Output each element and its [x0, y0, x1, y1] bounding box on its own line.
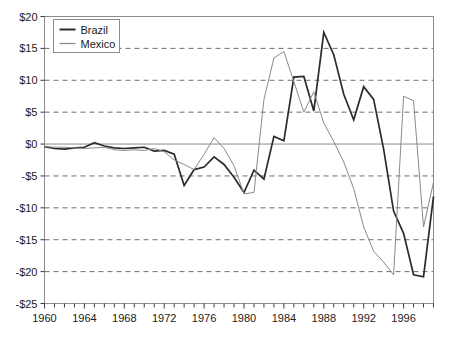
y-axis-label-10: $10 — [19, 74, 37, 86]
x-axis-ticks-group — [45, 304, 434, 309]
legend-label-mexico: Mexico — [81, 38, 116, 50]
plot-area-border — [45, 17, 434, 304]
x-axis-labels-group: 1960196419681972197619801984198819921996 — [32, 312, 416, 324]
series-line-mexico — [45, 52, 434, 275]
x-axis-label-1976: 1976 — [192, 312, 216, 324]
x-axis-label-1972: 1972 — [152, 312, 176, 324]
x-axis-label-1964: 1964 — [72, 312, 96, 324]
y-axis-label--10: -$10 — [15, 202, 37, 214]
y-axis-labels-group: $20$15$10$5$0-$5-$10-$15-$20-$25 — [15, 11, 37, 310]
x-axis-label-1980: 1980 — [232, 312, 256, 324]
chart-legend: BrazilMexico — [54, 20, 120, 53]
y-axis-label-0: $0 — [25, 138, 37, 150]
y-axis-label--25: -$25 — [15, 298, 37, 310]
plot-frame-group — [45, 17, 434, 304]
y-axis-ticks-group — [41, 17, 45, 304]
legend-label-brazil: Brazil — [81, 24, 109, 36]
x-axis-label-1968: 1968 — [112, 312, 136, 324]
x-axis-label-1996: 1996 — [391, 312, 415, 324]
chart-container: $20$15$10$5$0-$5-$10-$15-$20-$25 1960196… — [0, 0, 450, 341]
x-axis-label-1960: 1960 — [32, 312, 56, 324]
y-axis-label-20: $20 — [19, 11, 37, 23]
x-axis-label-1984: 1984 — [272, 312, 296, 324]
gridlines-group — [45, 48, 434, 271]
y-axis-label-5: $5 — [25, 106, 37, 118]
x-axis-label-1988: 1988 — [312, 312, 336, 324]
y-axis-label--15: -$15 — [15, 234, 37, 246]
x-axis-label-1992: 1992 — [351, 312, 375, 324]
y-axis-label--20: -$20 — [15, 266, 37, 278]
line-chart: $20$15$10$5$0-$5-$10-$15-$20-$25 1960196… — [0, 0, 450, 341]
y-axis-label--5: -$5 — [22, 170, 38, 182]
y-axis-label-15: $15 — [19, 42, 37, 54]
